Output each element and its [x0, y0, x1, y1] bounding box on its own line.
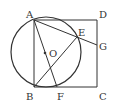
point-label-e: E: [78, 27, 85, 38]
point-label-c: C: [99, 91, 107, 102]
point-label-d: D: [99, 9, 107, 20]
circle-o: [11, 17, 81, 87]
geometry-figure: ABCDEFGO: [0, 0, 115, 107]
point-label-b: B: [26, 91, 33, 102]
point-label-o: O: [49, 48, 57, 59]
center-dot: [44, 52, 47, 55]
segment-ag: [34, 20, 97, 45]
point-label-g: G: [99, 41, 107, 52]
point-label-a: A: [25, 9, 34, 20]
figure-canvas: ABCDEFGO: [0, 0, 115, 107]
point-label-f: F: [57, 91, 64, 102]
segment-be: [34, 37, 77, 87]
